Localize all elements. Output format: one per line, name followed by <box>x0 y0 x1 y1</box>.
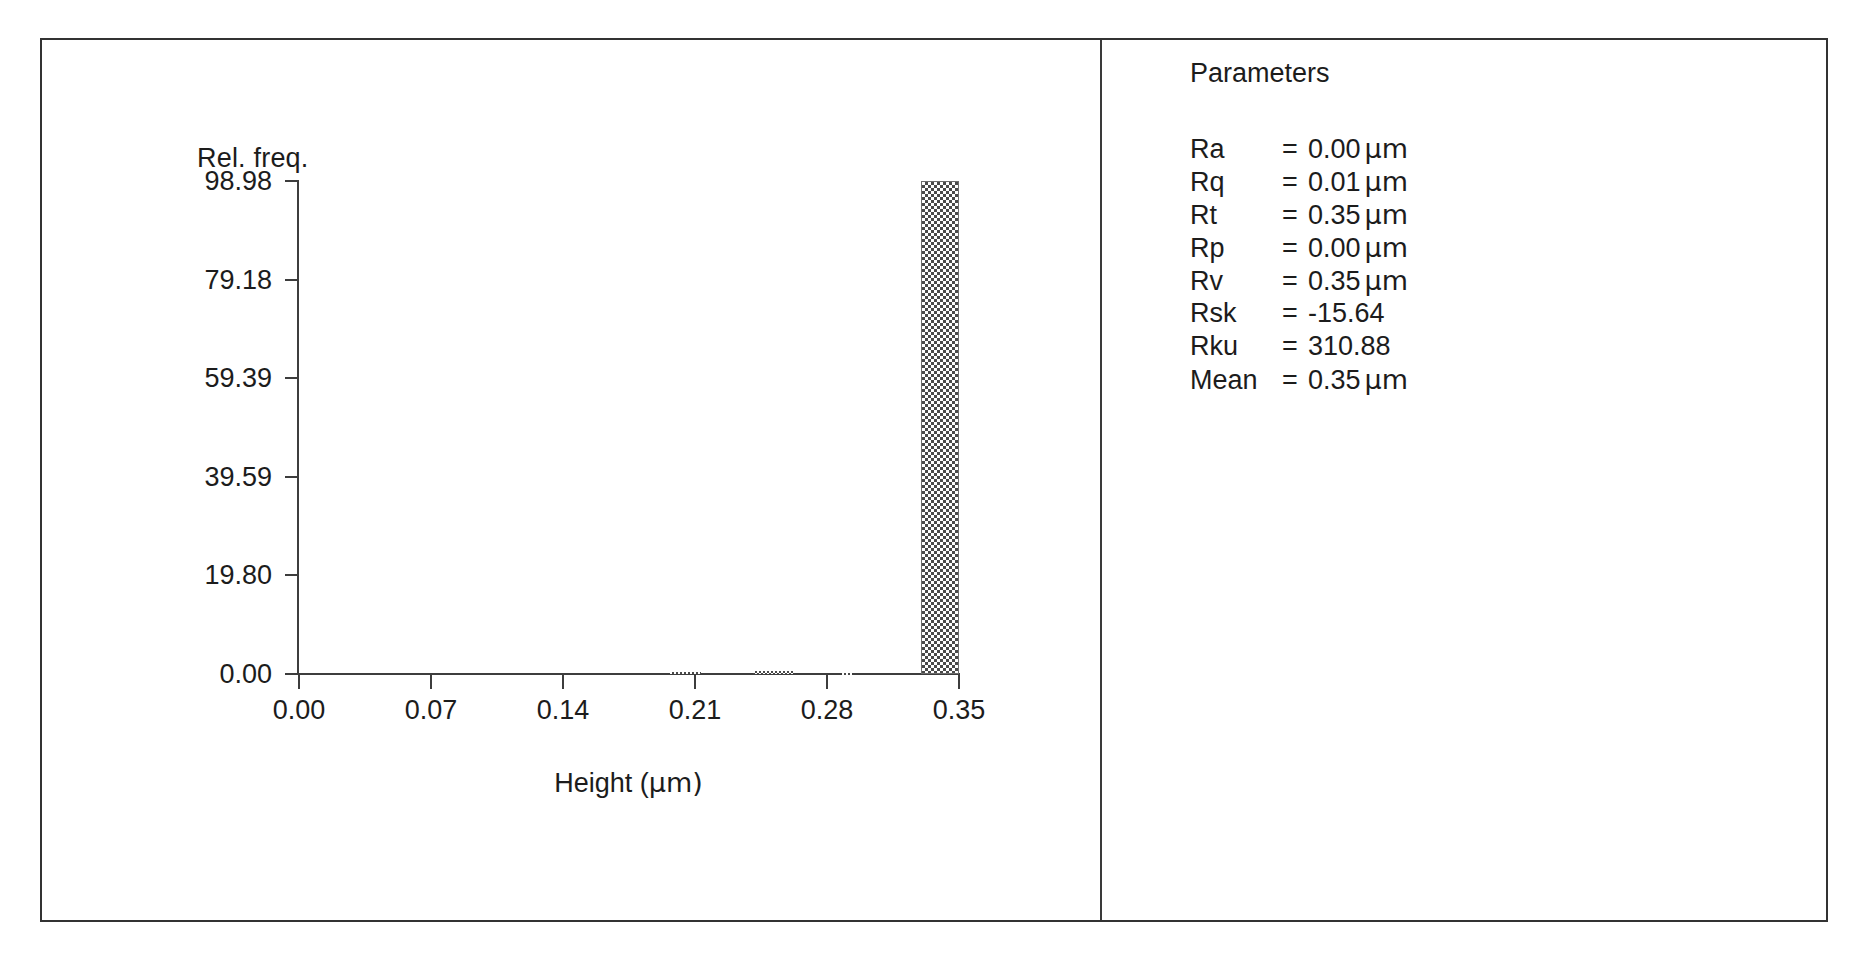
parameter-label: Rku <box>1190 331 1282 362</box>
x-tick-label: 0.28 <box>757 695 897 726</box>
parameter-label: Ra <box>1190 134 1282 165</box>
x-tick-label-wrap: 0.07 <box>361 695 501 729</box>
x-tick-label: 0.00 <box>229 695 369 726</box>
parameter-number: 0.35 <box>1308 200 1361 230</box>
y-axis-line <box>297 180 299 675</box>
y-tick-label: 79.18 <box>204 264 272 295</box>
parameter-value: -15.64 <box>1308 298 1385 329</box>
histogram-bar <box>753 671 793 674</box>
equals-sign: = <box>1282 167 1308 198</box>
parameters-list: Ra=0.00µmRq=0.01µmRt=0.35µmRp=0.00µmRv=0… <box>1190 133 1610 397</box>
equals-sign: = <box>1282 298 1308 329</box>
y-tick-mark <box>285 180 298 182</box>
parameter-label: Rp <box>1190 233 1282 264</box>
y-tick-mark <box>285 279 298 281</box>
parameter-number: 0.00 <box>1308 134 1361 164</box>
parameter-number: -15.64 <box>1308 298 1385 328</box>
histogram-bar <box>921 181 959 674</box>
x-axis-title: Height (µm) <box>297 767 960 799</box>
parameter-value: 310.88 <box>1308 331 1391 362</box>
equals-sign: = <box>1282 266 1308 297</box>
histogram-bar <box>842 673 851 675</box>
x-tick-label: 0.35 <box>889 695 1029 726</box>
x-tick-label-wrap: 0.14 <box>493 695 633 729</box>
parameter-number: 310.88 <box>1308 331 1391 361</box>
x-tick-mark <box>298 675 300 689</box>
surface-roughness-parameters: Parameters Ra=0.00µmRq=0.01µmRt=0.35µmRp… <box>1102 40 1828 920</box>
screenshot-root: Rel. freq. 0.0019.8039.5959.3979.1898.98… <box>0 0 1870 956</box>
parameter-value: 0.00µm <box>1308 133 1408 165</box>
parameter-row: Ra=0.00µm <box>1190 133 1610 166</box>
parameter-label: Rv <box>1190 266 1282 297</box>
parameter-unit: µm <box>1365 166 1408 197</box>
x-axis-line <box>297 673 960 675</box>
x-tick-mark <box>694 675 696 689</box>
parameter-number: 0.35 <box>1308 266 1361 296</box>
y-tick-label: 19.80 <box>204 560 272 591</box>
parameter-row: Mean=0.35µm <box>1190 364 1610 397</box>
x-tick-mark <box>430 675 432 689</box>
equals-sign: = <box>1282 331 1308 362</box>
equals-sign: = <box>1282 365 1308 396</box>
parameter-unit: µm <box>1365 265 1408 296</box>
figure-frame: Rel. freq. 0.0019.8039.5959.3979.1898.98… <box>40 38 1828 922</box>
y-tick-mark <box>285 574 298 576</box>
parameter-value: 0.35µm <box>1308 265 1408 297</box>
x-tick-label: 0.21 <box>625 695 765 726</box>
parameter-label: Mean <box>1190 365 1282 396</box>
parameter-row: Rsk=-15.64 <box>1190 298 1610 331</box>
parameter-label: Rt <box>1190 200 1282 231</box>
y-tick-mark <box>285 476 298 478</box>
x-axis-title-text: Height ( <box>554 768 649 798</box>
parameter-number: 0.01 <box>1308 167 1361 197</box>
parameter-value: 0.00µm <box>1308 232 1408 264</box>
y-tick-label: 39.59 <box>204 461 272 492</box>
x-tick-label: 0.07 <box>361 695 501 726</box>
x-tick-label-wrap: 0.28 <box>757 695 897 729</box>
x-tick-label-wrap: 0.21 <box>625 695 765 729</box>
x-tick-label-wrap: 0.00 <box>229 695 369 729</box>
y-tick-label: 0.00 <box>219 659 272 690</box>
parameter-unit: µm <box>1365 364 1408 395</box>
x-tick-mark <box>562 675 564 689</box>
y-tick-label: 59.39 <box>204 363 272 394</box>
parameter-row: Rv=0.35µm <box>1190 265 1610 298</box>
parameter-number: 0.35 <box>1308 365 1361 395</box>
x-tick-mark <box>826 675 828 689</box>
parameter-unit: µm <box>1365 199 1408 230</box>
parameter-row: Rp=0.00µm <box>1190 232 1610 265</box>
equals-sign: = <box>1282 200 1308 231</box>
parameter-value: 0.01µm <box>1308 166 1408 198</box>
parameter-row: Rku=310.88 <box>1190 331 1610 364</box>
parameter-row: Rq=0.01µm <box>1190 166 1610 199</box>
parameter-unit: µm <box>1365 133 1408 164</box>
x-tick-label-wrap: 0.35 <box>889 695 1029 729</box>
equals-sign: = <box>1282 233 1308 264</box>
x-tick-mark <box>958 675 960 689</box>
equals-sign: = <box>1282 134 1308 165</box>
parameter-number: 0.00 <box>1308 233 1361 263</box>
y-tick-mark <box>285 377 298 379</box>
histogram-bar <box>670 672 700 674</box>
x-tick-label: 0.14 <box>493 695 633 726</box>
parameters-heading: Parameters <box>1190 58 1330 89</box>
y-tick-label: 98.98 <box>204 166 272 197</box>
parameter-label: Rsk <box>1190 298 1282 329</box>
parameter-row: Rt=0.35µm <box>1190 199 1610 232</box>
micro-symbol: µm) <box>649 767 703 798</box>
parameter-unit: µm <box>1365 232 1408 263</box>
height-histogram-plot: Rel. freq. 0.0019.8039.5959.3979.1898.98… <box>42 40 1100 920</box>
y-tick-mark <box>285 673 298 675</box>
parameter-label: Rq <box>1190 167 1282 198</box>
parameter-value: 0.35µm <box>1308 364 1408 396</box>
parameter-value: 0.35µm <box>1308 199 1408 231</box>
